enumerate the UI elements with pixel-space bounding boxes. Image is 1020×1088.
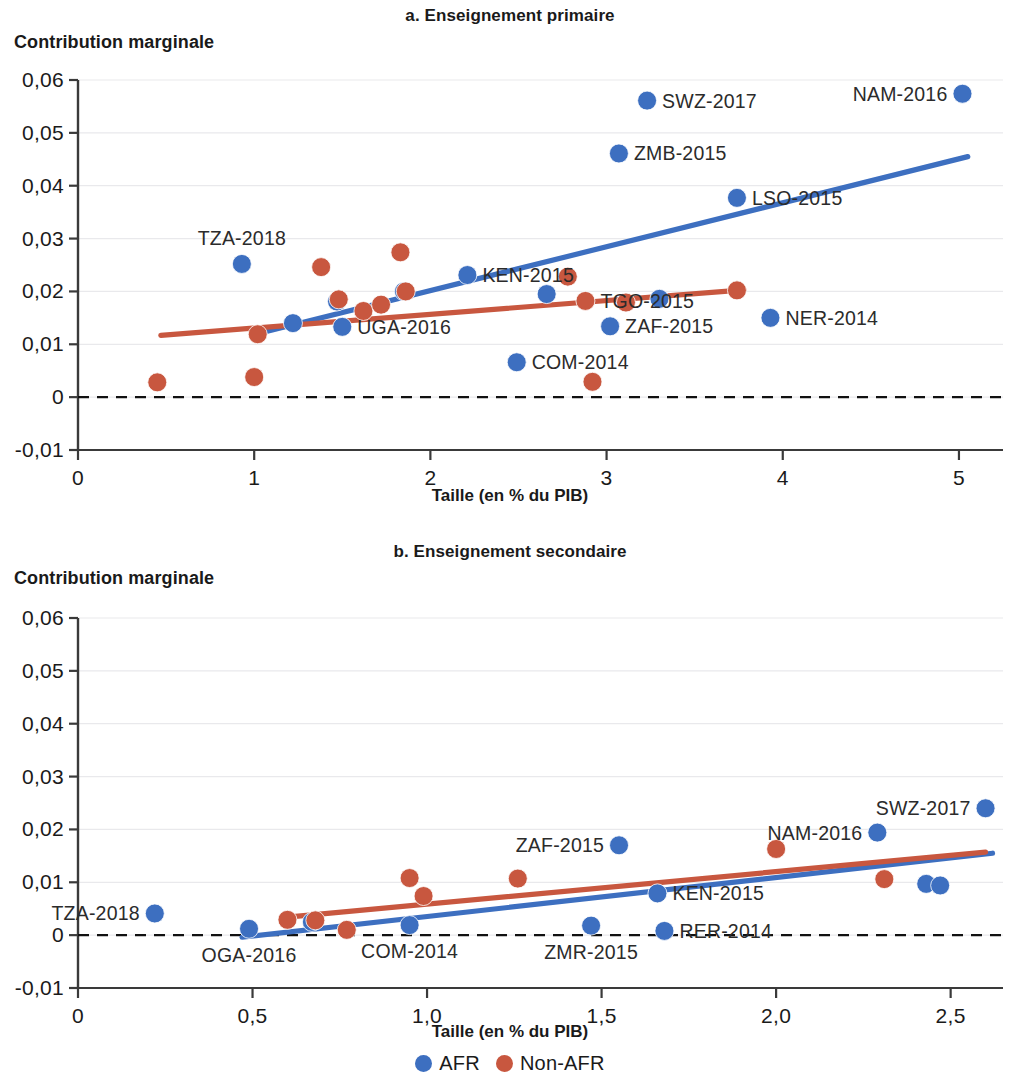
data-point-afr [240,919,259,938]
point-label: OGA-2016 [202,943,297,966]
data-point-afr [333,317,352,336]
data-point-afr [283,314,302,333]
y-tick-label: 0,06 [0,606,64,630]
data-point-afr [761,308,780,327]
y-tick-label: 0,03 [0,765,64,789]
point-label: KEN-2015 [482,264,574,287]
data-point-non-afr [278,910,297,929]
legend-item[interactable]: Non-AFR [496,1052,605,1075]
legend-swatch-icon [496,1055,513,1072]
point-label: LSO-2015 [752,186,843,209]
x-tick-label: 4 [777,466,789,490]
data-point-afr [727,188,746,207]
y-tick-label: 0,03 [0,227,64,251]
chart-panel-primary: a. Enseignement primaire Contribution ma… [0,0,1020,530]
data-point-non-afr [508,869,527,888]
point-label: SWZ-2017 [876,797,971,820]
data-point-non-afr [583,372,602,391]
point-label: KEN-2015 [672,882,764,905]
plot-svg [0,530,1020,1048]
data-point-afr [931,876,950,895]
data-point-afr [400,916,419,935]
data-point-afr [648,884,667,903]
data-point-non-afr [400,869,419,888]
data-point-non-afr [148,373,167,392]
data-point-afr [458,266,477,285]
point-label: TZA-2018 [198,226,286,249]
data-point-non-afr [391,243,410,262]
x-tick-label: 1 [248,466,260,490]
y-tick-label: 0,06 [0,68,64,92]
y-tick-label: 0,05 [0,121,64,145]
panel-a-plot-area [0,0,1020,510]
data-point-afr [610,836,629,855]
legend-swatch-icon [415,1055,432,1072]
data-point-afr [601,317,620,336]
point-label: ZMR-2015 [544,940,638,963]
data-point-non-afr [875,870,894,889]
point-label: COM-2014 [532,351,629,374]
y-tick-label: -0,01 [0,438,64,462]
legend-item[interactable]: AFR [415,1052,480,1075]
data-point-afr [609,144,628,163]
data-point-non-afr [414,887,433,906]
data-point-afr [976,799,995,818]
point-label: SWZ-2017 [662,89,757,112]
data-point-non-afr [576,291,595,310]
data-point-non-afr [337,920,356,939]
data-point-non-afr [329,290,348,309]
panel-b-x-axis-title: Taille (en % du PIB) [0,1022,1020,1042]
data-point-afr [582,916,601,935]
x-tick-label: 5 [953,466,965,490]
point-label: UGA-2016 [357,315,451,338]
x-tick-label: 0 [72,466,84,490]
x-tick-label: 0,5 [237,1004,267,1028]
point-label: COM-2014 [361,940,458,963]
data-point-non-afr [727,281,746,300]
y-tick-label: 0,05 [0,659,64,683]
y-tick-label: 0,04 [0,712,64,736]
y-tick-label: 0,02 [0,817,64,841]
plot-svg [0,0,1020,510]
y-tick-label: 0 [0,923,64,947]
data-point-afr [537,285,556,304]
data-point-non-afr [372,295,391,314]
point-label: ZAF-2015 [625,315,713,338]
data-point-afr [655,921,674,940]
data-point-non-afr [312,258,331,277]
x-tick-label: 1,5 [587,1004,617,1028]
data-point-afr [953,84,972,103]
y-tick-label: 0,01 [0,332,64,356]
data-point-non-afr [245,368,264,387]
point-label: TGO-2015 [600,289,694,312]
point-label: NAM-2016 [768,821,863,844]
data-point-afr [868,823,887,842]
x-tick-label: 0 [72,1004,84,1028]
chart-legend: AFRNon-AFR [0,1052,1020,1075]
x-tick-label: 3 [601,466,613,490]
panel-a-x-axis-title: Taille (en % du PIB) [0,486,1020,506]
data-point-afr [638,91,657,110]
point-label: NER-2014 [785,306,878,329]
x-tick-label: 2 [424,466,436,490]
x-tick-label: 2,5 [936,1004,966,1028]
y-tick-label: 0,01 [0,870,64,894]
data-point-afr [507,353,526,372]
legend-label: Non-AFR [520,1052,605,1075]
data-point-non-afr [306,911,325,930]
legend-label: AFR [439,1052,480,1075]
point-label: RER-2014 [679,919,772,942]
panel-b-plot-area [0,530,1020,1048]
y-tick-label: -0,01 [0,976,64,1000]
y-tick-label: 0,04 [0,174,64,198]
y-tick-label: 0 [0,385,64,409]
data-point-non-afr [248,325,267,344]
y-tick-label: 0,02 [0,279,64,303]
point-label: NAM-2016 [853,82,948,105]
data-point-afr [232,254,251,273]
point-label: ZAF-2015 [516,834,604,857]
point-label: TZA-2018 [51,902,139,925]
x-tick-label: 2,0 [761,1004,791,1028]
data-point-non-afr [396,282,415,301]
chart-panel-secondary: b. Enseignement secondaire Contribution … [0,530,1020,1088]
